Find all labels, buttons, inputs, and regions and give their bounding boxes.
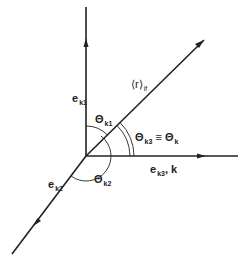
arc-theta-k1 bbox=[86, 126, 108, 135]
axis-e-k1 bbox=[84, 7, 89, 156]
label-theta-k3: Θk3 ≡ Θk bbox=[135, 128, 178, 144]
axis-e-k2 bbox=[12, 156, 86, 254]
label-theta-k1: Θk1 bbox=[95, 110, 112, 126]
label-e-k2: ek2 bbox=[48, 175, 63, 191]
arrow-up-icon bbox=[84, 38, 89, 47]
label-e-k3: ek3, k bbox=[150, 160, 177, 176]
arc-theta-k3-inner bbox=[117, 126, 130, 157]
axis-e-k3 bbox=[86, 154, 238, 159]
arrow-right-icon bbox=[197, 154, 206, 159]
vector-diagram: ek1 ⟨r⟩if Θk1 Θk3 ≡ Θk ek3, k ek2 Θk2 bbox=[0, 0, 251, 259]
label-r-if: ⟨r⟩if bbox=[131, 75, 147, 91]
label-theta-k2: Θk2 bbox=[94, 170, 111, 186]
diagram-lines bbox=[0, 0, 251, 259]
arrow-down-left-icon bbox=[33, 218, 41, 226]
label-e-k1: ek1 bbox=[72, 89, 87, 105]
